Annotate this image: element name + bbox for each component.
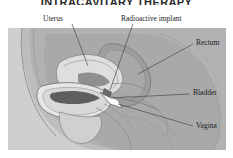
label-uterus: Uterus [43, 14, 63, 23]
anatomy-figure: INTRACAVITARY THERAPY [0, 0, 233, 158]
label-bladder: Bladder [193, 88, 217, 97]
label-radioactive-implant: Radioactive implant [121, 14, 182, 23]
illustration-canvas [0, 0, 233, 158]
label-vagina: Vagina [196, 121, 217, 130]
label-rectum: Rectum [196, 38, 219, 47]
